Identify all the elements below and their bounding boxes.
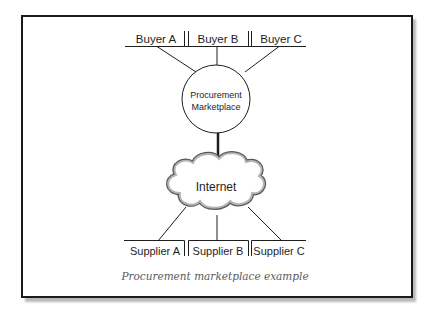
edge-internet-supplier-c [248,207,282,241]
diagram-caption: Procurement marketplace example [120,270,308,282]
supplier-a-label: Supplier A [130,245,181,257]
buyer-b-label: Buyer B [198,33,239,45]
diagram-canvas: Buyer A Buyer B Buyer C Procurement Mark… [0,0,433,318]
supplier-b-label: Supplier B [193,245,244,257]
hub-label-line1: Procurement [190,90,242,100]
buyer-a-label: Buyer A [136,33,177,45]
edge-internet-supplier-a [158,207,186,241]
buyer-c-label: Buyer C [260,33,302,45]
hub-label-line2: Marketplace [191,102,240,112]
supplier-c-label: Supplier C [253,245,304,257]
edge-buyer-c-hub [245,47,279,73]
edge-buyer-a-hub [157,47,196,73]
internet-label: Internet [196,180,237,194]
